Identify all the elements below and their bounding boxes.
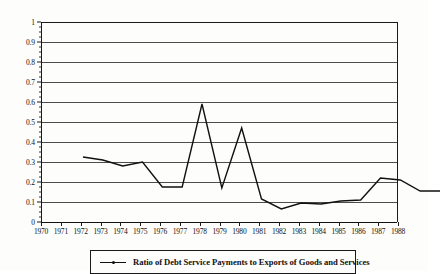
- y-axis: 00.10.20.30.40.50.60.70.80.91: [0, 22, 41, 222]
- x-axis: 1970197119721973197419751976197719781979…: [41, 222, 398, 244]
- x-tick-label: 1976: [153, 227, 167, 236]
- plot-area: [41, 22, 398, 222]
- x-tick-mark: [41, 222, 42, 226]
- x-tick-label: 1974: [113, 227, 127, 236]
- x-tick-label: 1975: [133, 227, 147, 236]
- series-line: [83, 44, 440, 244]
- x-tick-label: 1970: [34, 227, 48, 236]
- x-tick-mark: [279, 222, 280, 226]
- y-tick-label: 0.3: [26, 158, 35, 167]
- x-tick-mark: [101, 222, 102, 226]
- x-tick-mark: [358, 222, 359, 226]
- x-tick-mark: [299, 222, 300, 226]
- x-tick-label: 1973: [93, 227, 107, 236]
- x-tick-mark: [319, 222, 320, 226]
- x-tick-mark: [339, 222, 340, 226]
- legend-line-marker-icon: [100, 257, 126, 267]
- x-tick-label: 1978: [193, 227, 207, 236]
- x-tick-mark: [180, 222, 181, 226]
- x-tick-mark: [398, 222, 399, 226]
- x-tick-mark: [239, 222, 240, 226]
- x-tick-mark: [200, 222, 201, 226]
- y-tick-label: 0.9: [26, 38, 35, 47]
- gridline-0-9: [42, 42, 397, 43]
- y-tick-label: 1: [31, 18, 35, 27]
- y-tick-label: 0.2: [26, 178, 35, 187]
- x-tick-label: 1982: [272, 227, 286, 236]
- x-tick-label: 1980: [232, 227, 246, 236]
- x-tick-label: 1977: [173, 227, 187, 236]
- x-tick-mark: [220, 222, 221, 226]
- x-tick-label: 1971: [54, 227, 68, 236]
- x-tick-label: 1986: [351, 227, 365, 236]
- y-tick-label: 0.6: [26, 98, 35, 107]
- x-tick-label: 1972: [74, 227, 88, 236]
- y-tick-label: 0.1: [26, 198, 35, 207]
- y-tick-label: 0.7: [26, 78, 35, 87]
- chart-legend: Ratio of Debt Service Payments to Export…: [90, 250, 356, 274]
- x-tick-label: 1981: [252, 227, 266, 236]
- legend-label: Ratio of Debt Service Payments to Export…: [133, 257, 370, 267]
- y-tick-label: 0.5: [26, 118, 35, 127]
- x-tick-mark: [259, 222, 260, 226]
- x-tick-label: 1985: [331, 227, 345, 236]
- x-tick-mark: [61, 222, 62, 226]
- x-tick-label: 1988: [391, 227, 405, 236]
- x-tick-label: 1987: [371, 227, 385, 236]
- y-tick-label: 0: [31, 218, 35, 227]
- x-tick-label: 1983: [292, 227, 306, 236]
- x-tick-mark: [81, 222, 82, 226]
- x-tick-mark: [120, 222, 121, 226]
- x-tick-mark: [160, 222, 161, 226]
- x-tick-mark: [140, 222, 141, 226]
- y-tick-label: 0.8: [26, 58, 35, 67]
- x-tick-label: 1979: [212, 227, 226, 236]
- x-tick-mark: [378, 222, 379, 226]
- gridline-1: [42, 22, 397, 23]
- x-tick-label: 1984: [312, 227, 326, 236]
- y-tick-label: 0.4: [26, 138, 35, 147]
